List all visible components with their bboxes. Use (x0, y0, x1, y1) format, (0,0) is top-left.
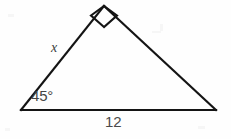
triangle-right-leg (104, 6, 216, 110)
base-length-label-12: 12 (105, 114, 121, 129)
angle-label-45: 45° (31, 88, 53, 103)
geometry-figure: x 45° 12 (0, 0, 231, 139)
side-length-label-x: x (51, 41, 57, 55)
